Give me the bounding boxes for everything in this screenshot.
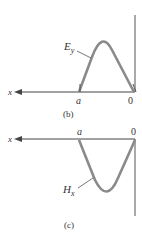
caption-b: (b) — [63, 109, 74, 119]
ey-leader-line — [77, 51, 91, 58]
ey-label: Ey — [63, 40, 75, 55]
ey-curve — [79, 41, 134, 92]
arrow-left-icon — [14, 136, 22, 142]
panel-c: Hx x a 0 (c) — [7, 126, 136, 230]
origin-label-c: 0 — [131, 126, 136, 137]
hx-label: Hx — [62, 183, 75, 198]
diagram-canvas: Ey x a 0 (b) Hx x a 0 (c) — [0, 0, 142, 235]
point-a-label-c: a — [77, 126, 82, 137]
hx-leader-line — [78, 178, 93, 188]
hx-curve — [79, 140, 135, 192]
x-axis-label-b: x — [7, 87, 12, 97]
origin-label-b: 0 — [128, 95, 133, 106]
panel-b: Ey x a 0 (b) — [7, 15, 136, 119]
arrow-left-icon — [14, 89, 22, 95]
point-a-label-b: a — [76, 95, 81, 106]
x-axis-label-c: x — [7, 134, 12, 144]
caption-c: (c) — [64, 220, 74, 230]
